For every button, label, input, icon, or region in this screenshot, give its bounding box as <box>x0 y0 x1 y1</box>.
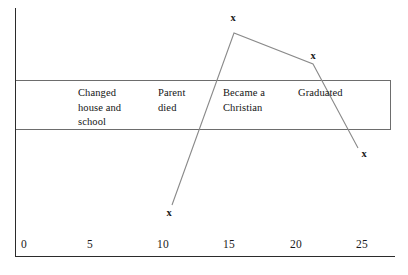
data-point-marker-4[interactable]: x <box>361 149 366 160</box>
series-line-life-satisfaction <box>172 33 358 205</box>
x-axis-tick-5: 5 <box>87 238 93 250</box>
x-axis-tick-15: 15 <box>223 238 235 250</box>
event-annotation-graduated: Graduated <box>298 86 343 101</box>
x-axis-tick-10: 10 <box>157 238 169 250</box>
x-axis-tick-0: 0 <box>21 238 27 250</box>
data-point-marker-3[interactable]: x <box>310 51 315 62</box>
event-annotation-changed-house-and-school: Changed house and school <box>78 86 121 130</box>
event-annotation-parent-died: Parent died <box>158 86 185 115</box>
chart-canvas <box>0 0 408 275</box>
x-axis-tick-20: 20 <box>290 238 302 250</box>
data-point-marker-1[interactable]: x <box>166 208 171 219</box>
lifeline-chart: x x x x Changed house and school Parent … <box>0 0 408 275</box>
data-point-marker-2[interactable]: x <box>230 13 235 24</box>
event-annotation-became-a-christian: Became a Christian <box>223 86 265 115</box>
x-axis-tick-25: 25 <box>356 238 368 250</box>
